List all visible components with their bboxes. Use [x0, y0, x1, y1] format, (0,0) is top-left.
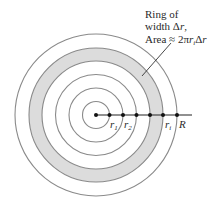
- label-r1: r1: [110, 118, 118, 132]
- concentric-rings-diagram: Ring of width Δr, Area ≈ 2πriΔr r1 r2 ri…: [0, 0, 220, 202]
- dot-r3: [135, 113, 139, 117]
- annotation-line2: width Δr,: [145, 20, 187, 32]
- label-r2: r2: [124, 118, 132, 132]
- leader-line: [142, 43, 171, 76]
- annotation-line1: Ring of: [145, 8, 179, 20]
- dot-ri: [161, 113, 165, 117]
- dot-r2: [121, 113, 125, 117]
- dot-r1: [108, 113, 112, 117]
- label-R: R: [178, 118, 186, 130]
- label-ri: ri: [165, 118, 171, 132]
- dot-R: [175, 113, 179, 117]
- dot-r4: [148, 113, 152, 117]
- annotation-line3: Area ≈ 2πriΔr: [145, 33, 207, 47]
- center-dot: [94, 113, 98, 117]
